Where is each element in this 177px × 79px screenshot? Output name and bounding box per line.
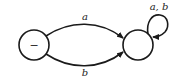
start-state-label: − [29, 39, 38, 52]
automaton-diagram: − a b a, b [0, 0, 177, 79]
state-accept [123, 30, 153, 60]
transition-label-b: b [82, 67, 88, 78]
transition-label-loop: a, b [150, 1, 169, 12]
transition-label-a: a [82, 11, 88, 22]
transition-a: a [46, 11, 123, 38]
state-start: − [19, 30, 49, 60]
transition-self-loop: a, b [148, 1, 169, 37]
transition-b: b [46, 52, 123, 78]
